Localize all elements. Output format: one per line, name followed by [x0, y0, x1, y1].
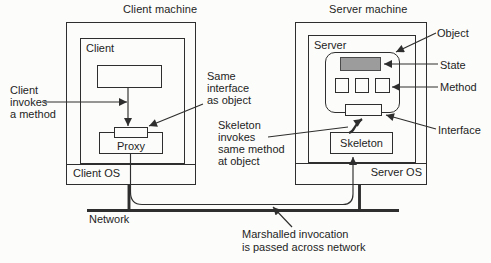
marshalled-label: Marshalled invocation is passed across n…: [242, 228, 366, 253]
proxy-interface-widget: [114, 127, 148, 138]
proxy-label: Proxy: [117, 140, 145, 152]
rmi-diagram: Client machine Client OS Client Proxy Se…: [0, 0, 491, 263]
interface-label: Interface: [438, 124, 481, 136]
skeleton-label: Skeleton: [340, 137, 383, 149]
server-os-label: Server OS: [295, 166, 422, 178]
client-os-label: Client OS: [73, 167, 120, 179]
method-square: [375, 78, 390, 93]
method-label: Method: [440, 81, 477, 93]
client-machine-title: Client machine: [123, 3, 197, 15]
method-square: [355, 78, 369, 93]
object-interface-widget: [345, 104, 382, 116]
network-label: Network: [89, 213, 129, 225]
same-interface-label: Same interface as object: [207, 70, 251, 106]
client-code-rect: [97, 65, 162, 88]
marshalled-pointer-line: [273, 207, 292, 227]
object-label: Object: [437, 27, 469, 39]
state-rect: [340, 57, 381, 71]
skeleton-invokes-label: Skeleton invokes same method at object: [218, 119, 285, 167]
client-invokes-label: Client invokes a method: [10, 84, 56, 120]
client-box-label: Client: [86, 42, 114, 54]
state-label: State: [440, 59, 466, 71]
skeleton-box: Skeleton: [330, 132, 393, 154]
method-square: [335, 78, 349, 93]
server-machine-title: Server machine: [329, 3, 407, 15]
server-box-label: Server: [314, 39, 346, 51]
